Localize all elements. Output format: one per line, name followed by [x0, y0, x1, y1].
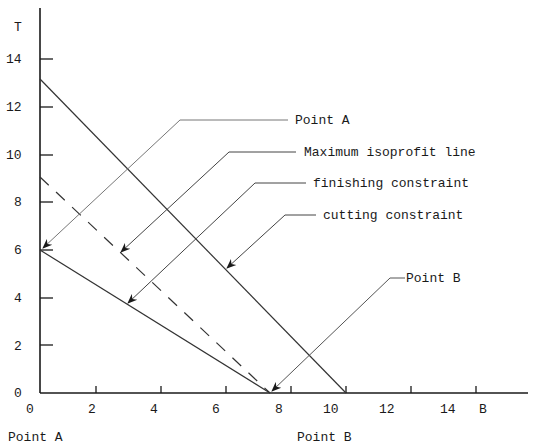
x-tick-label: 14 — [440, 402, 456, 417]
x-axis-label: B — [479, 402, 487, 417]
x-tick-label: 2 — [88, 402, 96, 417]
finishing-arrow — [128, 183, 255, 303]
bottom-label-point-b: Point B — [297, 430, 352, 444]
x-ticks — [96, 386, 476, 393]
annotation-cutting: cutting constraint — [323, 208, 463, 223]
y-axis-label: T — [14, 20, 22, 35]
bottom-label-point-a: Point A — [8, 430, 63, 444]
x-tick-label: 6 — [212, 402, 220, 417]
x-tick-label: 8 — [275, 402, 283, 417]
x-tick-label: 12 — [379, 402, 395, 417]
y-ticks — [40, 59, 53, 345]
y-tick-label: 10 — [6, 148, 22, 163]
x-tick-label: 4 — [150, 402, 158, 417]
y-tick-label: 0 — [14, 386, 22, 401]
annotation-point-a: Point A — [295, 113, 350, 128]
point-a-arrow — [43, 120, 180, 248]
y-tick-label: 2 — [14, 339, 22, 354]
y-tick-label: 12 — [6, 100, 22, 115]
y-tick-label: 14 — [6, 52, 22, 67]
isoprofit-arrow — [121, 152, 229, 252]
y-tick-label: 8 — [14, 195, 22, 210]
isoprofit-line — [40, 177, 270, 393]
x-tick-label: 10 — [323, 402, 339, 417]
annotation-point-b: Point B — [406, 271, 461, 286]
chart-canvas: 0 2 4 6 8 10 12 14 T 0 2 4 6 8 10 12 14 … — [0, 0, 546, 444]
cutting-arrow — [227, 215, 285, 268]
annotation-finishing: finishing constraint — [313, 176, 469, 191]
x-tick-label: 0 — [26, 402, 34, 417]
y-tick-label: 4 — [14, 291, 22, 306]
finishing-constraint-line — [40, 250, 270, 393]
y-tick-label: 6 — [14, 243, 22, 258]
annotation-isoprofit: Maximum isoprofit line — [304, 145, 476, 160]
